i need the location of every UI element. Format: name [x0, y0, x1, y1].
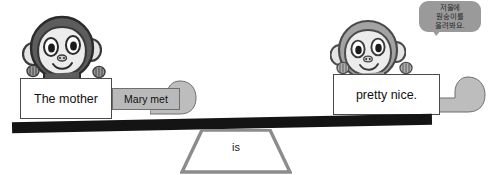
- monkey-right-hand-a: [336, 61, 350, 75]
- sign-board-left[interactable]: The mother: [20, 78, 112, 119]
- speech-bubble: 저울에 원숭이를 올려봐요.: [419, 1, 481, 36]
- word-card-mary-met-label: Mary met: [124, 93, 168, 105]
- fulcrum-label: is: [180, 141, 292, 153]
- monkey-left-hand-b: [92, 65, 106, 79]
- right-hook-tail: [437, 70, 487, 114]
- fulcrum: is: [180, 129, 292, 174]
- speech-bubble-line-3: 올려봐요.: [419, 21, 481, 30]
- word-card-mary-met[interactable]: Mary met: [112, 88, 180, 110]
- sign-board-left-label: The mother: [34, 92, 98, 106]
- speech-bubble-line-2: 원숭이를: [419, 12, 481, 21]
- monkey-left-hand-a: [26, 64, 40, 78]
- monkey-right-hand-b: [399, 61, 413, 75]
- sign-board-right-label: pretty nice.: [356, 88, 417, 102]
- speech-bubble-text: 저울에 원숭이를 올려봐요.: [419, 3, 481, 31]
- sign-board-right[interactable]: pretty nice.: [333, 74, 440, 115]
- speech-bubble-line-1: 저울에: [419, 3, 481, 12]
- illustration-canvas: Mary met The mother pretty nice. is 저울에 …: [0, 0, 488, 175]
